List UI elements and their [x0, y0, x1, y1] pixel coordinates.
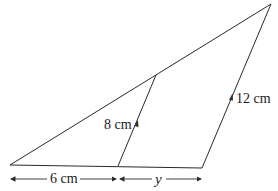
outer-triangle	[10, 4, 271, 168]
base-right-label: y	[153, 171, 162, 187]
inner-side-label: 8 cm	[104, 117, 132, 132]
base-left-label: 6 cm	[50, 171, 78, 186]
triangle-diagram: 8 cm 12 cm 6 cm y	[0, 0, 278, 191]
parallel-arrow-icon	[229, 94, 233, 101]
outer-side-label: 12 cm	[236, 91, 271, 106]
